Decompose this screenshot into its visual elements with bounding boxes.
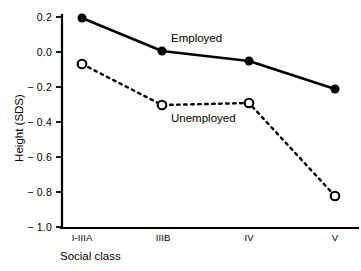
series-annotation-unemployed: Unemployed (171, 112, 236, 124)
y-tick-label-5: − 0.8 (10, 186, 52, 198)
y-tick-label-1: 0.0 (10, 46, 52, 58)
x-tick-label-3: V (305, 232, 361, 243)
series-annotation-employed: Employed (171, 32, 222, 44)
x-tick-label-0: I-IIIA (52, 232, 112, 243)
series-line-unemployed (82, 64, 335, 196)
series-markers-employed (78, 14, 340, 94)
x-tick-label-2: IV (219, 232, 279, 243)
x-axis-title: Social class (60, 250, 121, 262)
x-tick-label-1: IIIB (133, 232, 193, 243)
series-markers-unemployed (78, 60, 340, 201)
y-tick-label-6: − 1.0 (10, 221, 52, 233)
series-line-employed (82, 18, 335, 89)
y-axis-title: Height (SDS) (13, 73, 25, 183)
y-tick-label-0: 0.2 (10, 11, 52, 23)
chart-figure: 0.2 0.0 − 0.2 − 0.4 − 0.6 − 0.8 − 1.0 I-… (0, 0, 361, 271)
